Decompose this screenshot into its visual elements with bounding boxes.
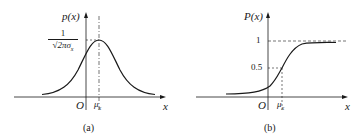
peak-denominator-text: √2πσ: [52, 40, 70, 50]
panel-a-ylabel: p(x): [62, 11, 80, 22]
peak-numerator: 1: [48, 29, 78, 40]
panel-a-plot: [14, 12, 166, 110]
panel-b-tick-one: 1: [256, 36, 261, 45]
panel-a-xlabel: x: [163, 101, 168, 112]
panel-b-mu-tick: μx: [277, 100, 284, 111]
panel-b-xlabel: x: [345, 101, 350, 112]
panel-a-caption: (a): [83, 122, 94, 133]
panel-a-origin: O: [76, 100, 84, 111]
panel-b-ylabel: P(x): [244, 11, 263, 22]
panel-b-tick-half: 0.5: [251, 63, 262, 72]
panel-b-origin: O: [258, 100, 266, 111]
peak-denominator: √2πσx: [48, 40, 78, 52]
figure-canvas: [0, 0, 364, 138]
panel-b-caption: (b): [264, 122, 276, 133]
mu-sub: x: [99, 105, 102, 111]
panel-a-peak-value: 1 √2πσx: [48, 29, 78, 52]
peak-denominator-sub: x: [71, 46, 74, 52]
mu-sub: x: [282, 105, 285, 111]
panel-b-plot: [196, 12, 348, 110]
panel-a-mu-tick: μx: [94, 100, 101, 111]
